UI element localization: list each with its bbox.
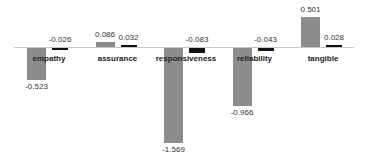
- bar-tangible-series1: [301, 17, 320, 47]
- value-label: -1.569: [162, 145, 185, 154]
- value-label: 0.032: [118, 33, 138, 42]
- value-label: 0.501: [300, 5, 320, 14]
- category-label-responsiveness: responsiveness: [156, 54, 216, 63]
- bar-assurance-series2: [121, 45, 137, 47]
- value-label: -0.523: [25, 82, 48, 91]
- value-label: -0.026: [49, 35, 72, 44]
- category-label-empathy: empathy: [33, 54, 66, 63]
- bar-tangible-series2: [326, 45, 342, 47]
- value-label: 0.028: [324, 33, 344, 42]
- value-label: -0.083: [186, 35, 209, 44]
- bar-chart: -0.523-0.026empathy0.0860.032assurance-1…: [0, 0, 366, 158]
- bar-responsiveness-series2: [189, 48, 205, 53]
- value-label: -0.043: [254, 35, 277, 44]
- category-label-assurance: assurance: [98, 54, 138, 63]
- category-label-reliability: reliability: [237, 54, 272, 63]
- value-label: -0.966: [231, 108, 254, 117]
- bar-empathy-series1: [27, 48, 46, 80]
- bar-empathy-series2: [52, 48, 68, 50]
- bar-assurance-series1: [96, 42, 115, 47]
- value-label: 0.086: [95, 30, 115, 39]
- bar-reliability-series2: [258, 48, 274, 51]
- category-label-tangible: tangible: [308, 54, 339, 63]
